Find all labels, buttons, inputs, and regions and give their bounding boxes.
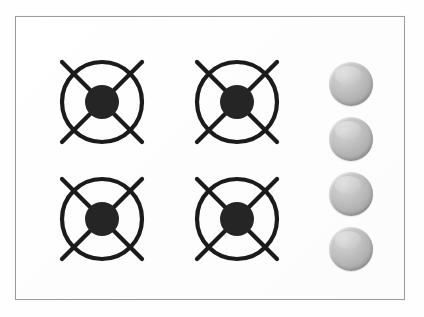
burner-front-left[interactable] [54,171,150,267]
burner-grate-icon [189,54,285,150]
control-knob-3[interactable] [329,172,373,216]
cooktop-illustration [0,0,424,317]
burner-cap-icon [85,85,119,119]
burner-front-right[interactable] [189,171,285,267]
control-knob-2[interactable] [329,117,373,161]
burner-cap-icon [85,202,119,236]
knob-highlight [335,176,361,194]
burner-grate-icon [54,171,150,267]
burner-rear-right[interactable] [189,54,285,150]
control-knob-1[interactable] [329,62,373,106]
knob-highlight [335,231,361,249]
burner-cap-icon [220,85,254,119]
burner-grate-icon [54,54,150,150]
burner-grate-icon [189,171,285,267]
burner-rear-left[interactable] [54,54,150,150]
burner-cap-icon [220,202,254,236]
control-knob-4[interactable] [329,227,373,271]
knob-highlight [335,66,361,84]
knob-highlight [335,121,361,139]
